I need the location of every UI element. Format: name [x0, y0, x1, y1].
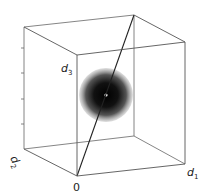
cube-svg: 0 d 1 d 3 d 2	[0, 0, 205, 195]
axis3-label: d 3	[61, 62, 72, 77]
axis2-label: d 2	[5, 154, 23, 171]
axis-ticks	[21, 48, 24, 124]
cube-diagram: 0 d 1 d 3 d 2	[0, 0, 205, 195]
svg-text:1: 1	[194, 173, 198, 181]
svg-text:3: 3	[68, 69, 72, 77]
origin-label: 0	[73, 181, 80, 194]
axis1-label: d 1	[187, 166, 198, 181]
